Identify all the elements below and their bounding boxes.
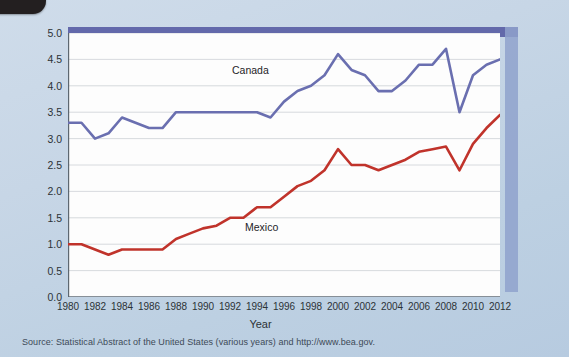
- y-axis-title-container: Exports and imports as share of GDP: [8, 33, 28, 297]
- y-tick-label: 1.0: [47, 238, 62, 250]
- x-tick-label: 1994: [246, 301, 268, 312]
- x-tick-label: 1996: [273, 301, 295, 312]
- x-axis-tick-labels: 1980198219841986198819901992199419961998…: [0, 301, 569, 317]
- x-tick-label: 1980: [57, 301, 79, 312]
- y-axis-tick-labels: 0.00.51.01.52.02.53.03.54.04.55.0: [28, 33, 62, 297]
- y-tick-label: 3.5: [47, 106, 62, 118]
- series-label-canada: Canada: [232, 64, 269, 76]
- x-axis-title-container: Year: [0, 318, 569, 330]
- y-tick-label: 1.5: [47, 212, 62, 224]
- x-tick-label: 1984: [111, 301, 133, 312]
- series-line-canada: [68, 49, 500, 139]
- y-tick-label: 5.0: [47, 27, 62, 39]
- y-tick-label: 3.0: [47, 133, 62, 145]
- x-tick-label: 1998: [300, 301, 322, 312]
- x-tick-label: 2010: [462, 301, 484, 312]
- x-tick-label: 1992: [219, 301, 241, 312]
- x-tick-label: 1990: [192, 301, 214, 312]
- header-band-right: [505, 27, 518, 292]
- chart-figure: Exports and imports as share of GDP 0.00…: [0, 0, 569, 357]
- x-tick-label: 2006: [408, 301, 430, 312]
- y-tick-label: 4.5: [47, 53, 62, 65]
- corner-tab-decoration: [0, 0, 46, 14]
- plot-area: [68, 33, 500, 297]
- series-label-mexico: Mexico: [245, 221, 278, 233]
- y-tick-label: 4.0: [47, 80, 62, 92]
- source-note: Source: Statistical Abstract of the Unit…: [22, 337, 375, 347]
- y-tick-label: 0.5: [47, 265, 62, 277]
- chart-canvas: [68, 33, 500, 297]
- x-tick-label: 1982: [84, 301, 106, 312]
- y-tick-label: 2.5: [47, 159, 62, 171]
- x-tick-label: 2008: [435, 301, 457, 312]
- x-tick-label: 2004: [381, 301, 403, 312]
- x-axis-title: Year: [249, 318, 271, 330]
- x-tick-label: 2012: [489, 301, 511, 312]
- y-tick-label: 2.0: [47, 185, 62, 197]
- series-line-mexico: [68, 115, 500, 255]
- x-tick-label: 2000: [327, 301, 349, 312]
- x-tick-label: 2002: [354, 301, 376, 312]
- x-tick-label: 1986: [138, 301, 160, 312]
- x-tick-label: 1988: [165, 301, 187, 312]
